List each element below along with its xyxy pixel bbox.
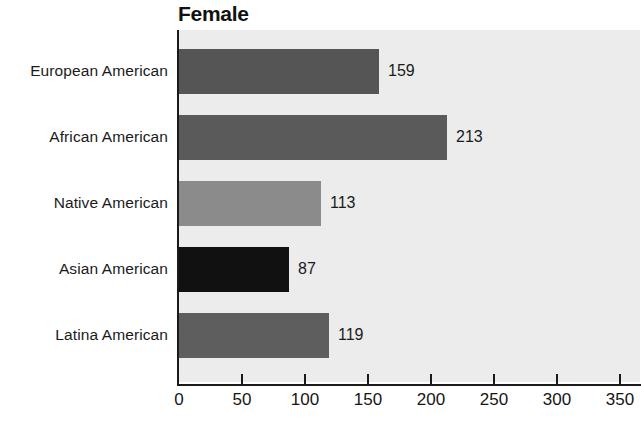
bar-asian-american — [179, 247, 289, 292]
x-tick-label: 250 — [480, 390, 508, 410]
x-tick-mark — [304, 374, 306, 385]
category-label-native-american: Native American — [0, 170, 168, 236]
bar-row: African American213 — [0, 104, 641, 170]
bar-value-label: 159 — [388, 38, 415, 104]
x-tick-label: 300 — [543, 390, 571, 410]
bar-native-american — [179, 181, 321, 226]
x-tick-label: 200 — [417, 390, 445, 410]
bar-row: Native American113 — [0, 170, 641, 236]
bar-european-american — [179, 49, 379, 94]
x-axis-line — [177, 384, 641, 386]
bar-value-label: 119 — [338, 302, 364, 368]
x-tick-label: 100 — [291, 390, 319, 410]
x-tick-label: 350 — [606, 390, 634, 410]
bar-row: Latina American119 — [0, 302, 641, 368]
x-tick-mark — [493, 374, 495, 385]
x-tick-label: 0 — [174, 390, 183, 410]
x-tick-label: 50 — [233, 390, 252, 410]
bar-african-american — [179, 115, 447, 160]
category-label-latina-american: Latina American — [0, 302, 168, 368]
bar-value-label: 113 — [330, 170, 356, 236]
bar-value-label: 213 — [456, 104, 483, 170]
bar-row: European American159 — [0, 38, 641, 104]
x-tick-mark — [430, 374, 432, 385]
category-label-african-american: African American — [0, 104, 168, 170]
x-tick-mark — [556, 374, 558, 385]
category-label-asian-american: Asian American — [0, 236, 168, 302]
x-tick-label: 150 — [354, 390, 382, 410]
x-tick-mark — [619, 374, 621, 385]
x-tick-mark — [367, 374, 369, 385]
bar-value-label: 87 — [298, 236, 316, 302]
x-tick-mark — [241, 374, 243, 385]
bar-row: Asian American87 — [0, 236, 641, 302]
chart-title: Female — [178, 1, 249, 27]
category-label-european-american: European American — [0, 38, 168, 104]
bar-latina-american — [179, 313, 329, 358]
bar-chart: Female European American159African Ameri… — [0, 0, 641, 432]
